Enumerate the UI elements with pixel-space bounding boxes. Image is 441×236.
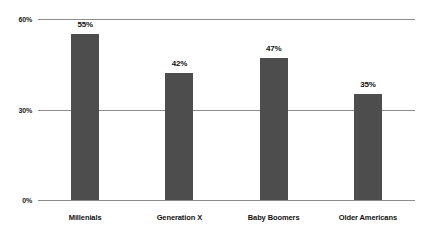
gridline-0: 0% bbox=[38, 200, 415, 201]
bar-millenials[interactable] bbox=[71, 34, 99, 200]
y-axis-tick-label-0: 0% bbox=[22, 197, 32, 204]
bar-value-label: 55% bbox=[77, 20, 92, 29]
bar-slot-millenials: 55% bbox=[38, 19, 132, 200]
y-axis-tick-label-60: 60% bbox=[19, 16, 32, 23]
x-axis-labels: Millenials Generation X Baby Boomers Old… bbox=[38, 206, 415, 224]
x-axis-label-generation-x: Generation X bbox=[157, 213, 202, 222]
bar-baby-boomers[interactable] bbox=[260, 58, 288, 200]
bar-chart: 60% 30% 0% 55% 42% 47% 35% bbox=[0, 0, 441, 236]
bar-older-americans[interactable] bbox=[354, 94, 382, 200]
bar-value-label: 47% bbox=[266, 44, 281, 53]
x-axis-label-baby-boomers: Baby Boomers bbox=[248, 213, 300, 222]
x-axis-label-slot: Older Americans bbox=[321, 206, 415, 224]
bar-value-label: 42% bbox=[172, 59, 187, 68]
bar-slot-older-americans: 35% bbox=[321, 19, 415, 200]
bar-group: 55% 42% 47% 35% bbox=[38, 19, 415, 200]
x-axis-label-slot: Baby Boomers bbox=[227, 206, 321, 224]
plot-area: 60% 30% 0% 55% 42% 47% 35% bbox=[38, 19, 415, 200]
bar-generation-x[interactable] bbox=[165, 73, 193, 200]
x-axis-label-slot: Millenials bbox=[38, 206, 132, 224]
bar-slot-baby-boomers: 47% bbox=[227, 19, 321, 200]
x-axis-label-slot: Generation X bbox=[132, 206, 226, 224]
bar-slot-generation-x: 42% bbox=[132, 19, 226, 200]
bar-value-label: 35% bbox=[360, 80, 375, 89]
y-axis-tick-label-30: 30% bbox=[19, 106, 32, 113]
x-axis-label-older-americans: Older Americans bbox=[339, 213, 397, 222]
x-axis-label-millenials: Millenials bbox=[69, 213, 102, 222]
